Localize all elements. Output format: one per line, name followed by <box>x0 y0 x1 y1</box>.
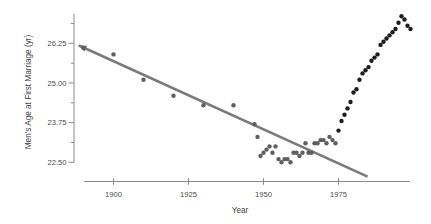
x-axis-title: Year <box>232 206 249 215</box>
data-point <box>342 113 346 117</box>
data-point <box>285 157 289 161</box>
x-tick-label: 1900 <box>105 190 122 199</box>
data-point <box>399 14 403 18</box>
scatterplot-figure: 26.2525.0023.7522.50 1900192519501975 Me… <box>0 0 431 224</box>
data-point <box>351 90 355 94</box>
data-point <box>276 157 280 161</box>
y-tick-label: 25.00 <box>47 79 66 88</box>
data-point <box>231 103 235 107</box>
data-point <box>261 151 265 155</box>
data-point <box>300 151 304 155</box>
data-point <box>348 100 352 104</box>
data-point <box>336 128 340 132</box>
data-point <box>381 40 385 44</box>
y-tick-label: 23.75 <box>47 118 66 127</box>
x-tick-label: 1925 <box>180 190 197 199</box>
y-axis-title: Men's Age at First Marriage (yr) <box>24 35 33 150</box>
data-point <box>357 78 361 82</box>
data-point <box>354 87 358 91</box>
trend-line-arrow <box>78 45 368 177</box>
data-point <box>297 154 301 158</box>
x-tick-label: 1975 <box>330 190 347 199</box>
data-point <box>141 78 145 82</box>
data-point <box>393 27 397 31</box>
data-point <box>390 30 394 34</box>
data-point <box>201 103 205 107</box>
y-axis-ticks: 26.2525.0023.7522.50 <box>47 23 74 167</box>
data-point <box>264 147 268 151</box>
y-tick-label: 26.25 <box>47 39 66 48</box>
marriage-age-scatterplot: 26.2525.0023.7522.50 1900192519501975 Me… <box>0 0 431 224</box>
data-point <box>303 141 307 145</box>
data-point <box>279 160 283 164</box>
data-point <box>321 138 325 142</box>
data-point <box>81 46 85 50</box>
data-point <box>309 151 313 155</box>
data-point <box>273 144 277 148</box>
extrapolation-trend-line <box>79 46 368 177</box>
scatter-points <box>81 14 412 164</box>
data-point <box>294 151 298 155</box>
data-point <box>327 135 331 139</box>
data-point <box>267 144 271 148</box>
data-point <box>402 17 406 21</box>
data-point <box>408 27 412 31</box>
data-point <box>324 141 328 145</box>
data-point <box>366 65 370 69</box>
data-point <box>288 160 292 164</box>
data-point <box>369 59 373 63</box>
data-point <box>333 141 337 145</box>
data-point <box>387 33 391 37</box>
data-point <box>111 52 115 56</box>
data-point <box>255 135 259 139</box>
data-point <box>396 21 400 25</box>
data-point <box>330 138 334 142</box>
x-tick-label: 1950 <box>255 190 272 199</box>
data-point <box>339 119 343 123</box>
data-point <box>375 52 379 56</box>
data-point <box>405 24 409 28</box>
data-point <box>270 151 274 155</box>
y-tick-label: 22.50 <box>47 158 66 167</box>
data-point <box>171 94 175 98</box>
data-point <box>372 55 376 59</box>
data-point <box>363 68 367 72</box>
data-point <box>258 154 262 158</box>
data-point <box>252 122 256 126</box>
data-point <box>378 43 382 47</box>
data-point <box>345 106 349 110</box>
data-point <box>315 141 319 145</box>
